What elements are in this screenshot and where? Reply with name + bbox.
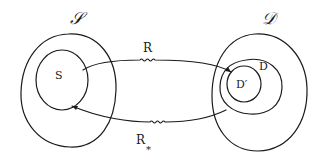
- r-star-arrow: [72, 106, 226, 123]
- script-s-label: 𝒮: [70, 8, 88, 28]
- s-label: S: [55, 69, 63, 82]
- d-prime-label: D′: [236, 78, 248, 91]
- r-label: R: [143, 41, 153, 55]
- d-label: D: [259, 60, 268, 73]
- diagram-canvas: 𝒮 S 𝒟 D D′ R R *: [0, 0, 320, 164]
- script-d-label: 𝒟: [262, 8, 279, 28]
- r-star-label: R: [136, 133, 146, 147]
- r-arrow: [83, 59, 231, 72]
- r-star-subscript: *: [146, 144, 151, 155]
